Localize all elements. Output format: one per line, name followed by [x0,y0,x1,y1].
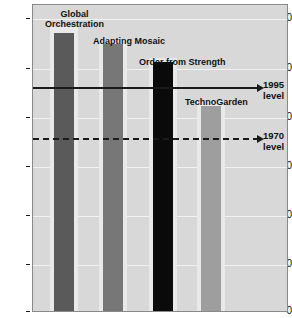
bar-technogarden[interactable] [201,106,221,311]
bar-label-adapting-mosaic-line1: Adapting Mosaic [93,36,165,46]
bar-label-technogarden: TechnoGarden [185,97,248,107]
y-tick-mark-0 [26,311,30,312]
bar-label-technogarden-line1: TechnoGarden [185,97,248,107]
bar-label-global-orchestration: Global Orchestration [45,9,104,29]
bar-label-global-orchestration-line2: Orchestration [45,19,104,29]
y-tick-mark-50 [26,68,30,69]
bar-label-global-orchestration-line1: Global [45,9,104,19]
y-tick-mark-60 [26,18,30,19]
bar-order-from-strength[interactable] [153,62,173,311]
reference-line-1995 [33,87,259,89]
chart-container: 60 50 40 30 20 10 0 [0,0,292,318]
bar-label-adapting-mosaic: Adapting Mosaic [93,36,165,46]
reference-label-1970-year: 1970 [263,130,284,141]
bar-label-order-from-strength: Order from Strength [139,57,226,67]
reference-label-1995-year: 1995 [263,79,284,90]
bar-global-orchestration[interactable] [54,33,74,311]
reference-label-1995: 1995 level [263,79,284,101]
reference-label-1970: 1970 level [263,130,284,152]
y-tick-mark-30 [26,166,30,167]
bar-adapting-mosaic[interactable] [103,44,123,311]
reference-label-1970-level: level [263,141,284,152]
bar-label-order-from-strength-line1: Order from Strength [139,57,226,67]
y-tick-mark-10 [26,264,30,265]
reference-label-1995-level: level [263,90,284,101]
y-tick-mark-40 [26,117,30,118]
plot-area: Global Orchestration Adapting Mosaic Ord… [32,4,288,312]
y-tick-mark-20 [26,215,30,216]
reference-line-1970 [33,138,259,140]
